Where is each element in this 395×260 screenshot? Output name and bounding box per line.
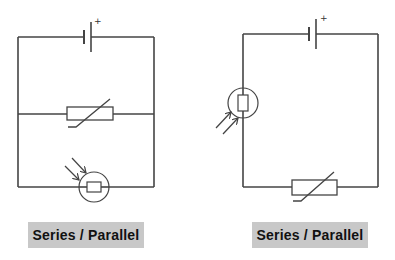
circuit-a: [18, 22, 154, 202]
thermistor-icon: [292, 172, 337, 201]
ldr-icon: [216, 88, 258, 134]
thermistor-icon: [67, 99, 113, 127]
circuit-a-label-button[interactable]: Series / Parallel: [28, 222, 144, 248]
cell-positive-sign: +: [320, 13, 328, 23]
circuit-diagrams: + +: [0, 0, 395, 260]
cell-icon: [84, 22, 91, 52]
cell-positive-sign: +: [94, 16, 102, 26]
cell-icon: [309, 19, 316, 49]
circuit-b-label-button[interactable]: Series / Parallel: [252, 222, 368, 248]
circuit-b: [216, 19, 378, 201]
ldr-icon: [65, 158, 109, 202]
